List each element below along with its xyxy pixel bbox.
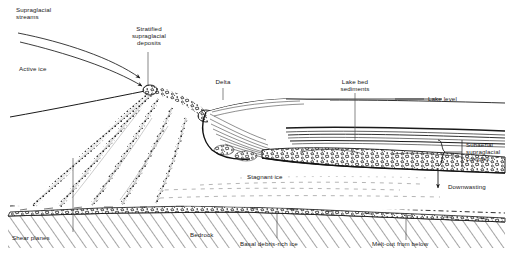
label-basal-debris-rich-ice: Basal debris-rich ice [240,240,298,247]
label-stagnant-ice: Stagnant ice [247,173,283,180]
label-downwasting: Downwasting [448,183,486,190]
glacial-cross-section-diagram: Supraglacial streams Stratified supragla… [0,0,509,255]
label-bedrock: Bedrock [190,231,213,238]
label-supraglacial-streams: Supraglacial streams [16,6,51,20]
label-melt-out-from-below: Melt-out from below [372,240,428,247]
label-delta: Delta [206,78,240,85]
label-active-ice: Active ice [19,65,46,72]
label-stratified-supraglacial-deposits: Stratified supraglacial deposits [118,25,180,47]
label-subaerial-supraglacial-complex: Subaerial supraglacial complex [466,141,500,163]
label-shear-planes: Shear planes [12,234,50,241]
label-lake-level: Lake level [428,95,457,102]
diagram-canvas [0,0,509,255]
label-lake-bed-sediments: Lake bed sediments [326,78,384,92]
